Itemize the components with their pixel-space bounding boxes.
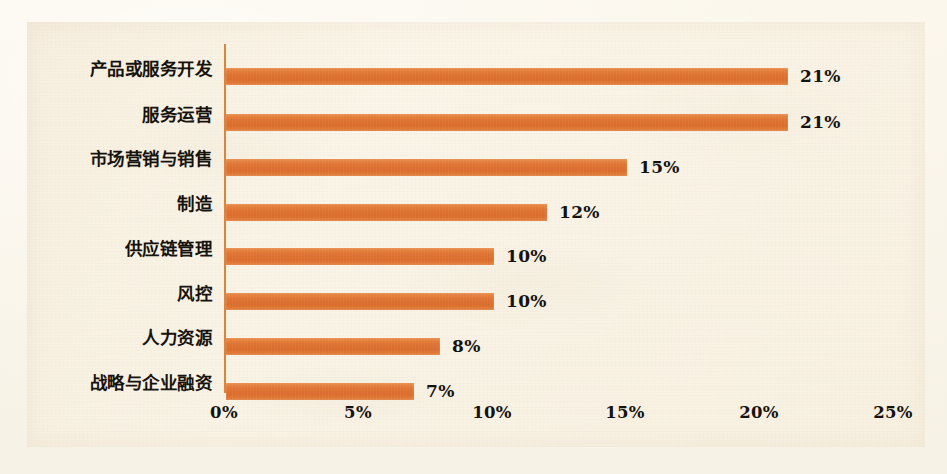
x-tick-label-0: 0% — [189, 403, 259, 422]
bar-4[interactable] — [226, 248, 494, 265]
category-label-7: 战略与企业融资 — [22, 373, 212, 393]
value-label-0: 21% — [800, 68, 841, 85]
category-label-4: 供应链管理 — [22, 239, 212, 259]
bar-0[interactable] — [226, 68, 788, 85]
value-label-3: 12% — [559, 204, 600, 221]
category-label-6: 人力资源 — [22, 328, 212, 348]
bar-6[interactable] — [226, 338, 440, 355]
category-label-0: 产品或服务开发 — [22, 59, 212, 79]
value-label-4: 10% — [506, 248, 547, 265]
category-label-5: 风控 — [22, 284, 212, 304]
bar-2[interactable] — [226, 159, 627, 176]
bar-7[interactable] — [226, 383, 414, 400]
value-label-1: 21% — [800, 114, 841, 131]
value-label-5: 10% — [506, 293, 547, 310]
value-label-7: 7% — [426, 383, 455, 400]
bar-5[interactable] — [226, 293, 494, 310]
category-label-1: 服务运营 — [22, 105, 212, 125]
x-tick-label-4: 20% — [724, 403, 794, 422]
chart-panel: 产品或服务开发 服务运营 市场营销与销售 制造 供应链管理 风控 人力资源 战略… — [27, 22, 925, 447]
scanned-page: 产品或服务开发 服务运营 市场营销与销售 制造 供应链管理 风控 人力资源 战略… — [0, 0, 947, 474]
value-label-6: 8% — [452, 338, 481, 355]
bar-chart-plot-area: 产品或服务开发 服务运营 市场营销与销售 制造 供应链管理 风控 人力资源 战略… — [27, 22, 925, 447]
x-tick-label-2: 10% — [457, 403, 527, 422]
bar-1[interactable] — [226, 114, 788, 131]
category-label-3: 制造 — [22, 194, 212, 214]
x-tick-label-1: 5% — [323, 403, 393, 422]
bar-3[interactable] — [226, 204, 547, 221]
value-label-2: 15% — [639, 159, 680, 176]
category-label-2: 市场营销与销售 — [22, 149, 212, 169]
x-tick-label-3: 15% — [590, 403, 660, 422]
x-tick-label-5: 25% — [858, 403, 928, 422]
